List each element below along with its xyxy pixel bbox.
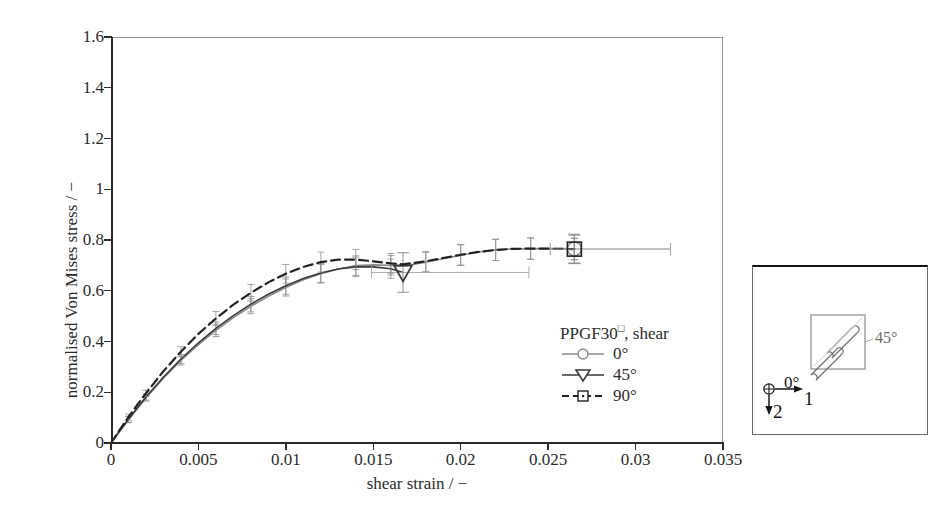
series-45° [111, 253, 529, 443]
y-tick-label-text: 1.6 [60, 28, 104, 45]
x-tick [110, 442, 111, 450]
legend-item-90deg[interactable]: 90° [560, 386, 730, 407]
x-tick-label-text: 0 [76, 450, 146, 469]
x-tick-label-text: 0.03 [601, 450, 671, 469]
x-tick [285, 442, 286, 450]
x-tick [722, 442, 723, 450]
x-tick-label-text: 0.025 [513, 450, 583, 469]
x-tick-label: 0 [76, 450, 146, 469]
error-bars-45° [125, 257, 394, 422]
error-bars-90° [125, 238, 578, 420]
y-tick-label-text: 1.4 [60, 79, 104, 96]
chart-area: 00.20.40.60.811.21.41.6 00.0050.010.0150… [0, 0, 740, 507]
x-tick-label-text: 0.005 [163, 450, 233, 469]
legend-title-main: PPGF30 [560, 324, 618, 343]
x-axis-title: shear strain / − [111, 474, 723, 494]
x-tick [198, 442, 199, 450]
series-line-0° [111, 249, 574, 443]
legend-title-rest: , shear [624, 324, 668, 343]
origin-axis-symbol [764, 384, 774, 394]
y-tick [104, 189, 112, 190]
x-tick-label-text: 0.015 [338, 450, 408, 469]
legend-marker-square-icon [560, 387, 606, 405]
figure-root: 00.20.40.60.811.21.41.6 00.0050.010.0150… [0, 0, 941, 507]
series-line-90° [111, 249, 574, 443]
x-axis-line [111, 442, 724, 444]
x-tick [635, 442, 636, 450]
y-tick [104, 341, 112, 342]
y-tick [104, 138, 112, 139]
legend-item-0deg[interactable]: 0° [560, 344, 730, 365]
legend-item-label: 0° [606, 345, 628, 363]
inset-label-45: 45° [875, 329, 897, 347]
x-tick-label: 0.02 [426, 450, 496, 469]
legend-title: PPGF30□, shear [560, 318, 730, 344]
x-tick [460, 442, 461, 450]
x-tick-label: 0.035 [688, 450, 758, 469]
y-tick [104, 290, 112, 291]
legend-marker-triangle-down-icon [560, 366, 606, 384]
axis-2-arrow-icon [765, 395, 772, 415]
y-tick [104, 239, 112, 240]
x-tick-label-text: 0.02 [426, 450, 496, 469]
specimen-orientation-inset: 45° 0° 1 2 [752, 265, 928, 435]
x-tick [373, 442, 374, 450]
x-tick-label: 0.025 [513, 450, 583, 469]
guide-diagonal [813, 317, 863, 367]
inset-label-0: 0° [784, 373, 799, 393]
series-line-45° [111, 267, 403, 443]
legend-item-label: 90° [606, 387, 637, 405]
x-tick [547, 442, 548, 450]
x-tick-label-text: 0.01 [251, 450, 321, 469]
leader-45 [865, 339, 873, 342]
inset-label-axis-1: 1 [804, 388, 814, 410]
y-axis-title: normalised Von Mises stress / − [62, 130, 82, 450]
x-tick-label: 0.01 [251, 450, 321, 469]
x-tick-label: 0.015 [338, 450, 408, 469]
y-tick [104, 87, 112, 88]
legend: PPGF30□, shear 0°45°90° [560, 318, 730, 407]
legend-items: 0°45°90° [560, 344, 730, 407]
legend-item-label: 45° [606, 366, 637, 384]
y-tick [104, 36, 112, 37]
legend-item-45deg[interactable]: 45° [560, 365, 730, 386]
inset-label-axis-2: 2 [773, 401, 783, 423]
y-tick [104, 392, 112, 393]
x-tick-label-text: 0.035 [688, 450, 758, 469]
x-tick-label: 0.03 [601, 450, 671, 469]
y-tick-label: 1.6 [52, 28, 104, 45]
y-tick-label: 1.4 [52, 79, 104, 96]
x-tick-label: 0.005 [163, 450, 233, 469]
y-axis-title-holder: normalised Von Mises stress / − [22, 80, 52, 380]
legend-marker-circle-icon [560, 345, 606, 363]
